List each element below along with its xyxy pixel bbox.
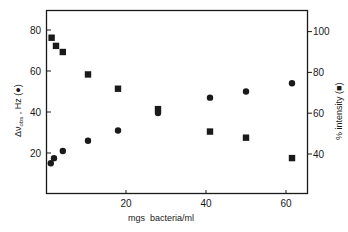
- y-right-tick-label: 60: [313, 108, 325, 119]
- square-marker: [207, 128, 213, 134]
- x-axis-label-unit: bacteria/ml: [150, 213, 194, 223]
- y-left-subscript: obs: [18, 117, 24, 127]
- square-marker: [85, 71, 91, 77]
- y-left-unit: , Hz (●): [13, 84, 23, 116]
- square-marker: [53, 43, 59, 49]
- square-marker: [60, 49, 66, 55]
- y-right-tick-label: 100: [313, 26, 330, 37]
- y-left-tick-label: 40: [30, 107, 42, 118]
- axis-ticks: 20406020406080406080100: [30, 25, 330, 210]
- y-left-tick-label: 20: [30, 148, 42, 159]
- square-marker: [289, 155, 295, 161]
- circle-marker: [289, 80, 295, 86]
- y-right-label: % intensity (■): [334, 83, 344, 140]
- circle-marker: [115, 127, 121, 133]
- circle-marker: [85, 138, 91, 144]
- y-axis-label-right: % intensity (■): [334, 83, 344, 140]
- x-axis-label-mgs: mgs: [128, 213, 146, 223]
- y-left-tick-label: 80: [30, 25, 42, 36]
- circle-marker: [60, 148, 66, 154]
- y-left-delta: Δν: [13, 126, 23, 137]
- y-left-tick-label: 60: [30, 66, 42, 77]
- square-marker: [115, 86, 121, 92]
- data-points: [48, 35, 296, 167]
- svg-text:Δνobs , Hz (●): Δνobs , Hz (●): [13, 84, 24, 137]
- y-right-tick-label: 80: [313, 67, 325, 78]
- square-marker: [48, 35, 54, 41]
- y-right-tick-label: 40: [313, 149, 325, 160]
- plot-frame: [47, 11, 308, 194]
- circle-marker: [243, 88, 249, 94]
- x-tick-label: 20: [120, 198, 132, 209]
- x-tick-label: 40: [200, 198, 212, 209]
- x-tick-label: 60: [280, 198, 292, 209]
- circle-marker: [207, 94, 213, 100]
- square-marker: [155, 106, 161, 112]
- y-axis-label-left: Δνobs , Hz (●): [13, 84, 24, 137]
- scatter-chart: 20406020406080406080100 mgs bacteria/ml …: [0, 0, 348, 232]
- circle-marker: [51, 155, 57, 161]
- square-marker: [243, 134, 249, 140]
